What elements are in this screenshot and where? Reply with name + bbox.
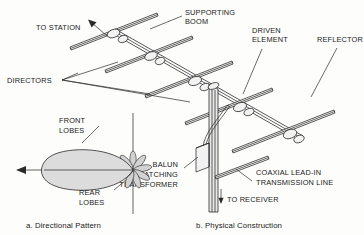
arrow-left-icon bbox=[16, 166, 26, 174]
reflector-element bbox=[232, 110, 335, 153]
label-driven-element-2: ELEMENT bbox=[252, 35, 288, 44]
label-directors: DIRECTORS bbox=[7, 76, 52, 85]
yagi-antenna-figure: TO STATION DIRECTORS SUPPORTING BOOM DRI… bbox=[0, 0, 364, 235]
label-reflector: REFLECTOR bbox=[317, 35, 363, 44]
caption-b: b. Physical Construction bbox=[196, 221, 282, 230]
label-supporting-boom-1: SUPPORTING bbox=[185, 8, 235, 17]
label-supporting-boom-2: BOOM bbox=[185, 17, 208, 26]
label-rear-lobes-1: REAR bbox=[79, 188, 100, 197]
label-driven-element-1: DRIVEN bbox=[252, 26, 281, 35]
label-rear-lobes-2: LOBES bbox=[79, 198, 104, 207]
figure-canvas: TO STATION DIRECTORS SUPPORTING BOOM DRI… bbox=[0, 0, 364, 235]
label-front-lobes-1: FRONT bbox=[59, 116, 86, 125]
arrow-up-left-icon bbox=[88, 20, 107, 37]
arrow-down-icon bbox=[218, 189, 223, 204]
caption-a: a. Directional Pattern bbox=[26, 221, 101, 230]
balun-matching-transformer bbox=[196, 143, 209, 172]
label-to-station: TO STATION bbox=[36, 23, 81, 32]
label-front-lobes-2: LOBES bbox=[59, 126, 84, 135]
label-to-receiver: TO RECEIVER bbox=[227, 195, 279, 204]
label-balun-1: BALUN bbox=[153, 160, 178, 169]
label-coax-2: TRANSMISSION LINE bbox=[256, 178, 333, 187]
label-coax-1: COAXIAL LEAD-IN bbox=[256, 168, 321, 177]
directional-pattern-chart: FRONT LOBES REAR LOBES a. Directional Pa… bbox=[16, 113, 152, 230]
